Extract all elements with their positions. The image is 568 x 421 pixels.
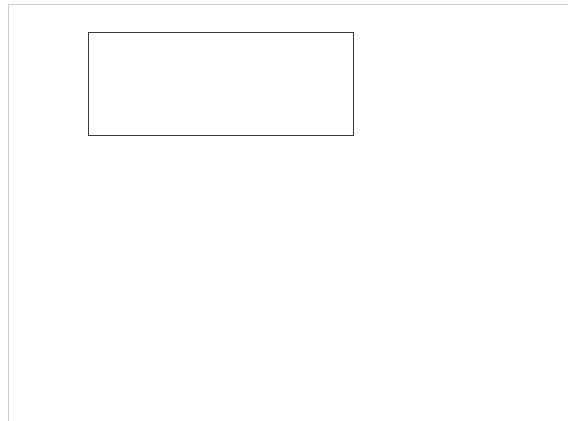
- legend-marker-circle-icon: [229, 104, 265, 116]
- legend-marker-star-icon: [229, 73, 265, 85]
- legend-item-xray-apparatus-tubes: [229, 42, 353, 73]
- legend-marker-square-icon: [97, 73, 133, 85]
- chart-page: [0, 0, 568, 421]
- legend-item-electromedical-equipment: [229, 73, 353, 104]
- legend-column-left: [89, 33, 227, 135]
- legend-item-in-vitro-diagnostic-substances: [229, 104, 353, 135]
- legend-marker-triangle-icon: [97, 104, 133, 116]
- legend: [88, 32, 354, 136]
- legend-column-right: [227, 33, 353, 135]
- legend-item-dental-equipment-supplies: [97, 104, 227, 135]
- legend-marker-x-icon: [229, 42, 265, 54]
- legend-item-surgical-medical-instruments: [97, 42, 227, 73]
- legend-marker-diamond-icon: [97, 42, 133, 54]
- legend-item-surgical-appliances-supplies: [97, 73, 227, 104]
